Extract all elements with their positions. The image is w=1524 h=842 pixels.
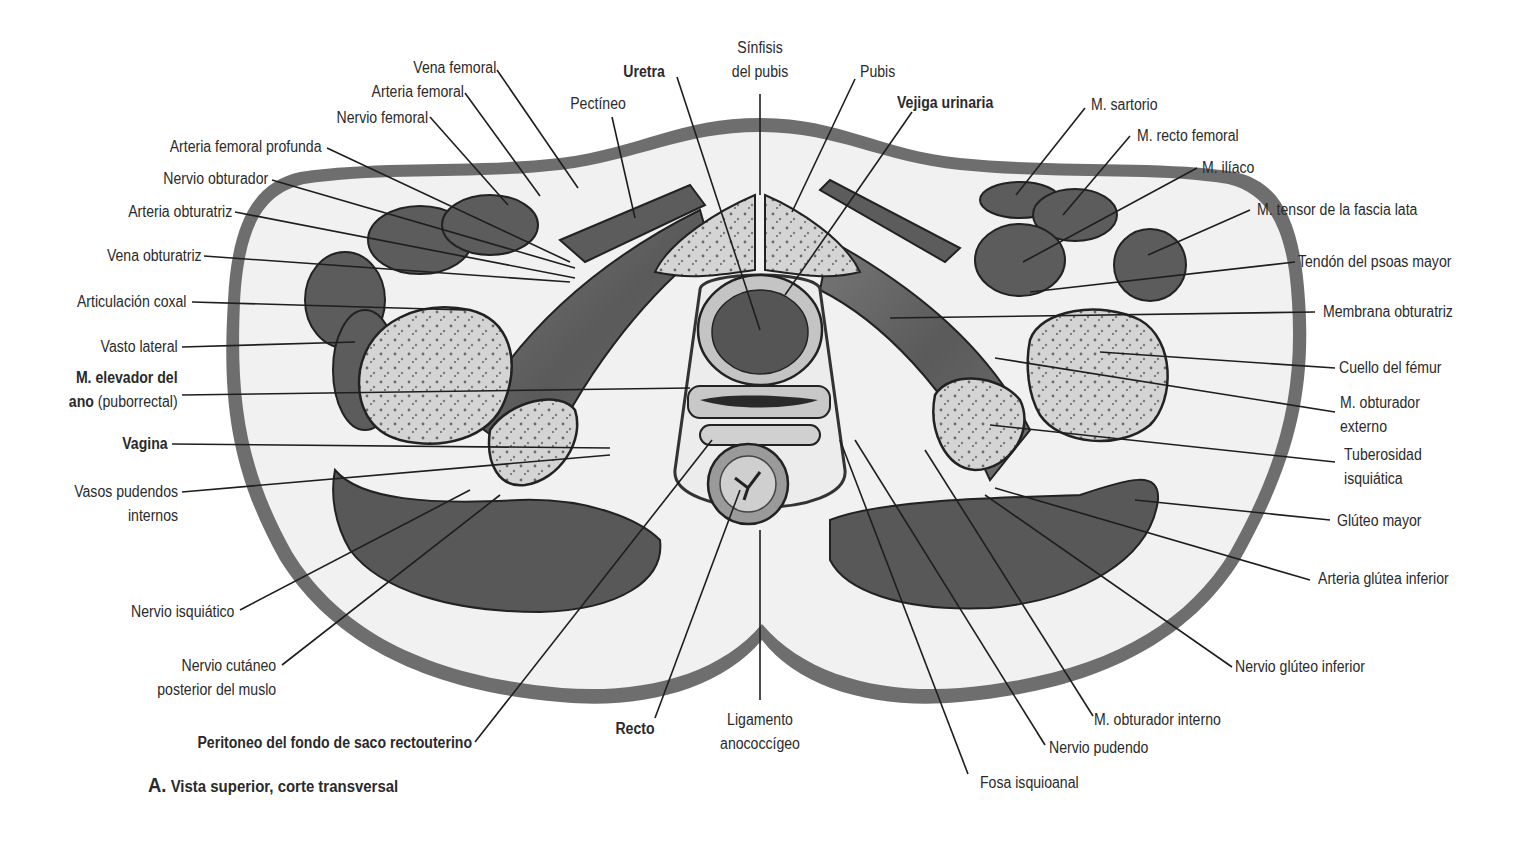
label-m-recto-femoral: M. recto femoral — [1137, 124, 1239, 148]
label-peritoneo-fondo-saco: Peritoneo del fondo de saco rectouterino — [197, 731, 472, 755]
label-ligamento-line2: anococcígeo — [720, 735, 800, 752]
label-vasos-line1: Vasos pudendos — [74, 483, 178, 500]
label-sinfisis-del-pubis: Sínfisis del pubis — [720, 36, 799, 84]
label-nervio-femoral: Nervio femoral — [336, 106, 428, 130]
label-tuberosidad-line1: Tuberosidad — [1344, 446, 1422, 463]
label-m-elevador-line2-bold: ano — [69, 393, 94, 410]
label-arteria-femoral: Arteria femoral — [372, 80, 464, 104]
label-vasos-pudendos-internos: Vasos pudendos internos — [74, 480, 178, 528]
label-pubis: Pubis — [860, 60, 895, 84]
label-gluteo-mayor: Glúteo mayor — [1337, 509, 1422, 533]
label-arteria-glutea-inferior: Arteria glútea inferior — [1318, 567, 1449, 591]
pelvic-organs — [675, 275, 845, 524]
label-ligamento-line1: Ligamento — [727, 711, 793, 728]
label-nervio-cutaneo-line2: posterior del muslo — [157, 681, 276, 698]
label-pectineo: Pectíneo — [567, 92, 629, 116]
label-nervio-obturador: Nervio obturador — [163, 167, 268, 191]
label-tendon-psoas-mayor: Tendón del psoas mayor — [1298, 250, 1451, 274]
label-m-obturador-interno: M. obturador interno — [1094, 708, 1221, 732]
label-vena-obturatriz: Vena obturatriz — [107, 244, 202, 268]
label-sinfisis-line2: del pubis — [732, 63, 788, 80]
label-m-elevador-line2-rest: (puborrectal) — [94, 393, 178, 410]
label-nervio-cutaneo-posterior: Nervio cutáneo posterior del muslo — [157, 654, 276, 702]
label-recto: Recto — [608, 717, 663, 741]
label-vasos-line2: internos — [128, 507, 178, 524]
label-m-tensor-fascia-lata: M. tensor de la fascia lata — [1257, 198, 1417, 222]
label-m-elevador-line1: M. elevador del — [76, 369, 178, 386]
label-m-obturador-externo: M. obturador externo — [1340, 391, 1420, 439]
label-m-iliaco: M. ilíaco — [1202, 156, 1254, 180]
label-membrana-obturatriz: Membrana obturatriz — [1323, 300, 1453, 324]
label-vasto-lateral: Vasto lateral — [101, 335, 178, 359]
caption-text: Vista superior, corte transversal — [171, 777, 399, 796]
label-vena-femoral: Vena femoral — [413, 56, 496, 80]
label-arteria-obturatriz: Arteria obturatriz — [128, 200, 232, 224]
caption-letter: A. — [148, 773, 166, 796]
figure-caption: A. Vista superior, corte transversal — [148, 773, 398, 797]
label-nervio-cutaneo-line1: Nervio cutáneo — [181, 657, 276, 674]
label-tuberosidad-isquiatica: Tuberosidad isquiática — [1344, 443, 1422, 491]
label-vagina: Vagina — [123, 432, 168, 456]
label-obturador-externo-line1: M. obturador — [1340, 394, 1420, 411]
label-articulacion-coxal: Articulación coxal — [76, 290, 186, 314]
label-m-elevador-del-ano: M. elevador del ano (puborrectal) — [69, 366, 178, 414]
label-sinfisis-line1: Sínfisis — [737, 39, 782, 56]
label-m-sartorio: M. sartorio — [1091, 93, 1158, 117]
label-obturador-externo-line2: externo — [1340, 418, 1387, 435]
label-arteria-femoral-profunda: Arteria femoral profunda — [170, 135, 322, 159]
label-nervio-pudendo: Nervio pudendo — [1049, 736, 1148, 760]
label-uretra: Uretra — [616, 60, 672, 84]
label-cuello-del-femur: Cuello del fémur — [1339, 356, 1442, 380]
label-ligamento-anococcigeo: Ligamento anococcígeo — [716, 708, 804, 756]
label-nervio-isquiatico: Nervio isquiático — [131, 600, 234, 624]
label-tuberosidad-line2: isquiática — [1344, 470, 1403, 487]
label-fosa-isquioanal: Fosa isquioanal — [980, 771, 1079, 795]
label-vejiga-urinaria: Vejiga urinaria — [897, 91, 993, 115]
label-nervio-gluteo-inferior: Nervio glúteo inferior — [1235, 655, 1365, 679]
